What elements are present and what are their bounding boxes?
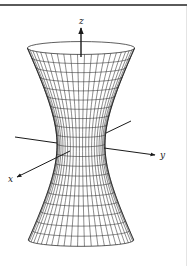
parallel-line xyxy=(56,134,105,137)
parallel-line xyxy=(44,202,118,206)
parallel-line xyxy=(36,221,125,226)
parallel-line xyxy=(36,67,127,72)
parallel-line xyxy=(40,211,121,216)
hyperboloid-diagram: z y x xyxy=(0,0,187,266)
parallel-line xyxy=(50,106,112,110)
top-rule-divider xyxy=(0,4,187,6)
y-axis-arrow xyxy=(104,148,155,155)
meridian-line xyxy=(83,54,85,246)
right-border-divider xyxy=(186,6,187,266)
meridian-line xyxy=(77,54,79,246)
y-axis-negative-segment xyxy=(15,137,57,143)
parallel-line xyxy=(40,77,123,82)
parallel-line xyxy=(55,125,107,128)
x-axis-negative-segment xyxy=(106,121,131,133)
parallel-line xyxy=(51,182,112,186)
y-axis-label: y xyxy=(159,150,166,160)
parallel-line xyxy=(53,115,109,118)
x-axis-label: x xyxy=(8,174,13,184)
hyperboloid-surface-mesh xyxy=(27,42,134,247)
hyperboloid-figure: z y x xyxy=(0,0,187,266)
parallel-line xyxy=(53,173,108,176)
parallel-line xyxy=(57,144,105,147)
meridian-line xyxy=(46,53,66,245)
parallel-line xyxy=(32,230,129,236)
axes-in-front xyxy=(17,28,155,177)
parallel-line xyxy=(28,240,134,246)
parallel-line xyxy=(43,86,118,91)
z-axis-label: z xyxy=(78,16,84,26)
parallel-line xyxy=(55,163,106,166)
parallel-line xyxy=(48,192,115,196)
parallel-line xyxy=(47,96,115,100)
parallel-line xyxy=(32,58,131,64)
